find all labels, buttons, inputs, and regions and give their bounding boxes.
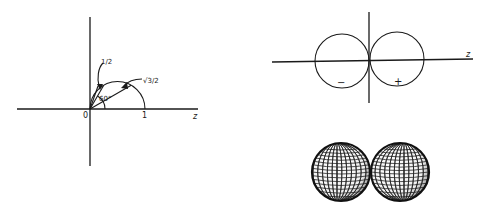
origin-label: 0: [83, 111, 88, 120]
wire-lobe-left: [308, 143, 370, 201]
left-diagram: 0 1 z 1/2 √3/2 60°: [17, 17, 198, 166]
angle-label: 60°: [99, 95, 111, 103]
one-half-label: 1/2: [101, 58, 112, 66]
arrowhead-root3-half: [121, 82, 128, 89]
wire-lobe-right: [371, 143, 433, 201]
z-axis-right: [272, 59, 473, 62]
figure-canvas: 0 1 z 1/2 √3/2 60° − + z: [0, 0, 484, 215]
polar-plot: − + z: [272, 12, 473, 103]
leader-one-half: [98, 63, 103, 86]
orbital-wireframe: [308, 143, 433, 201]
positive-sign: +: [394, 76, 402, 87]
z-axis-label-right: z: [465, 50, 471, 59]
negative-sign: −: [337, 77, 345, 88]
root3-half-label: √3/2: [143, 77, 159, 85]
z-axis-label-left: z: [192, 112, 198, 121]
unit-label: 1: [142, 111, 147, 120]
